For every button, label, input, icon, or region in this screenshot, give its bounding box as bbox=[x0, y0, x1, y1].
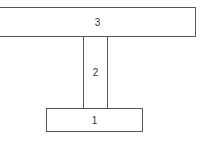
block-2-label: 2 bbox=[93, 67, 99, 78]
block-2: 2 bbox=[83, 36, 108, 109]
block-3: 3 bbox=[0, 7, 196, 37]
block-1: 1 bbox=[46, 108, 143, 132]
block-3-label: 3 bbox=[95, 17, 101, 28]
block-1-label: 1 bbox=[92, 115, 98, 126]
